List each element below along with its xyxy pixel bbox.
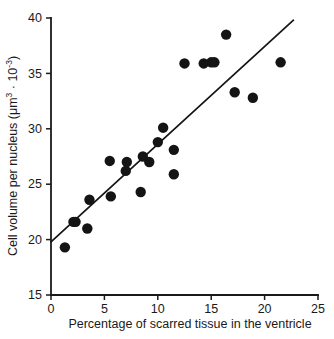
data-point [136, 187, 146, 197]
y-tick-label: 40 [28, 11, 42, 25]
data-point [70, 217, 80, 227]
x-tick-label: 15 [204, 302, 218, 316]
regression-line-segment [51, 20, 293, 242]
data-point [144, 157, 154, 167]
y-axis-title: Cell volume per nucleus (μm3 · 10-3) [4, 56, 20, 256]
x-tick-label: 10 [151, 302, 165, 316]
y-axis-title-main: Cell volume per nucleus (μm [6, 97, 20, 256]
data-point [169, 145, 179, 155]
y-tick-label: 30 [28, 122, 42, 136]
data-point [275, 57, 285, 67]
x-tick-label: 20 [258, 302, 272, 316]
x-tick-label: 0 [48, 302, 55, 316]
data-point [158, 122, 168, 132]
chart-canvas: 152025303540 0510152025 Percentage of sc… [0, 0, 334, 339]
y-tick-label: 35 [28, 67, 42, 81]
data-point [122, 157, 132, 167]
y-tick-label: 15 [28, 288, 42, 302]
y-tick-label: 25 [28, 177, 42, 191]
y-axis-title-mid: · 10 [6, 68, 20, 93]
data-point [209, 57, 219, 67]
y-tick-label: 20 [28, 233, 42, 247]
data-point [106, 191, 116, 201]
data-point [179, 58, 189, 68]
scatter-chart-figure: 152025303540 0510152025 Percentage of sc… [0, 0, 334, 339]
data-point [153, 137, 163, 147]
svg-text:Cell volume per nucleus (μm3 ·: Cell volume per nucleus (μm3 · 10-3) [4, 56, 20, 256]
data-point [82, 223, 92, 233]
data-point [84, 195, 94, 205]
x-axis-ticks: 0510152025 [48, 295, 325, 316]
data-points [60, 29, 286, 252]
data-point [221, 29, 231, 39]
data-point [105, 156, 115, 166]
x-tick-label: 5 [101, 302, 108, 316]
y-axis-title-tail: ) [6, 56, 20, 60]
data-point [248, 93, 258, 103]
x-tick-label: 25 [311, 302, 325, 316]
data-point [229, 87, 239, 97]
regression-line [51, 20, 293, 242]
data-point [169, 169, 179, 179]
data-point [60, 242, 70, 252]
data-point [121, 166, 131, 176]
x-axis-title: Percentage of scarred tissue in the vent… [68, 317, 311, 331]
y-axis-ticks: 152025303540 [28, 11, 51, 302]
